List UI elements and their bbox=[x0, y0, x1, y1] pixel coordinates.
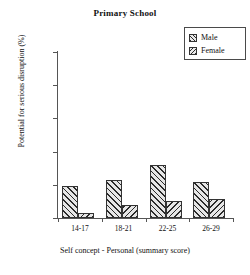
legend-item-male: Male bbox=[189, 31, 245, 44]
legend-label-male: Male bbox=[201, 33, 217, 42]
bar-female-22-25 bbox=[166, 201, 182, 218]
bar-group-22-25 bbox=[146, 52, 190, 218]
bar-group-14-17 bbox=[58, 52, 102, 218]
bars-area bbox=[58, 52, 233, 218]
chart-title: Primary School bbox=[0, 8, 250, 18]
x-axis-label: Self concept - Personal (summary score) bbox=[0, 246, 250, 255]
bar-female-14-17 bbox=[78, 213, 94, 218]
legend-swatch-male-icon bbox=[189, 34, 197, 42]
bar-female-18-21 bbox=[122, 205, 138, 218]
bar-male-26-29 bbox=[193, 182, 209, 218]
x-tick-label-26-29: 26-29 bbox=[191, 224, 231, 233]
x-tick-1 bbox=[102, 218, 103, 222]
bar-group-18-21 bbox=[102, 52, 146, 218]
x-tick-label-14-17: 14-17 bbox=[60, 224, 100, 233]
bar-male-22-25 bbox=[150, 165, 166, 218]
bar-male-18-21 bbox=[106, 180, 122, 219]
x-tick-3 bbox=[189, 218, 190, 222]
chart-figure: Primary School Male Female 0 5 10 15 20 … bbox=[0, 0, 250, 275]
bar-female-26-29 bbox=[209, 199, 225, 218]
x-tick-0 bbox=[58, 218, 59, 222]
x-tick-label-22-25: 22-25 bbox=[147, 224, 187, 233]
y-axis-label: Potential for serious disruption (%) bbox=[17, 1, 31, 181]
x-tick-4 bbox=[233, 218, 234, 222]
bar-group-26-29 bbox=[189, 52, 233, 218]
x-tick-2 bbox=[146, 218, 147, 222]
x-tick-label-18-21: 18-21 bbox=[104, 224, 144, 233]
bar-male-14-17 bbox=[62, 186, 78, 218]
